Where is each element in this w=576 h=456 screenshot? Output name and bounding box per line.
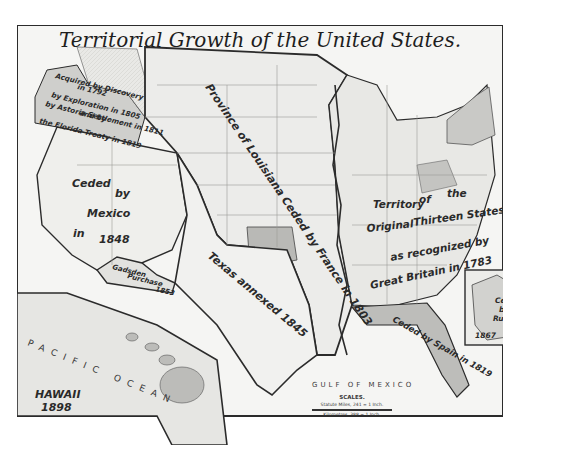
label-line: by bbox=[115, 187, 131, 200]
label-line: Mexico bbox=[87, 207, 131, 220]
label-line: Territory bbox=[373, 198, 425, 210]
label-line: 1867 bbox=[475, 331, 497, 340]
scale-bar-miles bbox=[312, 409, 392, 411]
label-line: in bbox=[73, 227, 85, 240]
label-line: Ceded bbox=[72, 177, 111, 190]
label-line: HAWAII bbox=[35, 388, 81, 401]
label-line: of bbox=[419, 193, 432, 205]
label-line: the bbox=[447, 187, 467, 199]
map-canvas: Territorial Growth of the United States.… bbox=[17, 25, 503, 445]
map-title: Territorial Growth of the United States. bbox=[59, 28, 461, 52]
label-gulf-of-mexico: GULF OF MEXICO bbox=[312, 381, 414, 389]
label-line: Ceded bbox=[495, 296, 503, 305]
label-line: 1898 bbox=[41, 401, 72, 414]
map-figure: Territorial Growth of the United States.… bbox=[17, 25, 503, 416]
label-line: Russia bbox=[493, 314, 503, 323]
label-line: 1848 bbox=[99, 233, 130, 246]
label-line: by bbox=[499, 305, 503, 314]
scale-km-label: Kilometres, 388 = 1 Inch. bbox=[323, 412, 380, 417]
scale-heading: SCALES. bbox=[339, 394, 365, 400]
scale-miles-label: Statute Miles, 241 = 1 Inch. bbox=[321, 402, 384, 407]
